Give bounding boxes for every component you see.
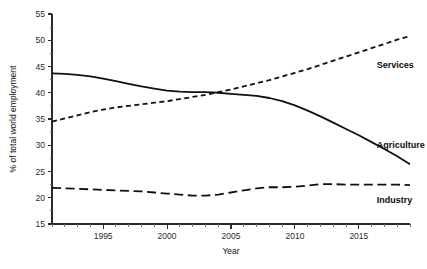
y-tick-label: 55 [36, 9, 46, 19]
y-axis-tick-labels: 152025303540455055 [36, 9, 46, 229]
y-tick-label: 45 [36, 62, 46, 72]
y-tick-label: 35 [36, 114, 46, 124]
y-tick-label: 40 [36, 88, 46, 98]
y-axis-title: % of total world employment [8, 65, 18, 172]
x-tick-label: 2005 [222, 231, 241, 241]
y-tick-label: 50 [36, 35, 46, 45]
series-label-agriculture: Agriculture [377, 140, 425, 150]
x-tick-label: 2015 [349, 231, 368, 241]
x-axis-title: Year [222, 246, 239, 256]
chart-background [0, 0, 427, 269]
line-chart: 152025303540455055 19952000200520102015 … [0, 0, 427, 269]
y-tick-label: 25 [36, 167, 46, 177]
y-tick-label: 15 [36, 219, 46, 229]
x-tick-label: 1995 [94, 231, 113, 241]
x-tick-label: 2000 [158, 231, 177, 241]
series-label-industry: Industry [377, 195, 413, 205]
y-tick-label: 30 [36, 140, 46, 150]
chart-container: 152025303540455055 19952000200520102015 … [0, 0, 427, 269]
series-label-services: Services [377, 60, 414, 70]
x-tick-label: 2010 [285, 231, 304, 241]
y-tick-label: 20 [36, 193, 46, 203]
